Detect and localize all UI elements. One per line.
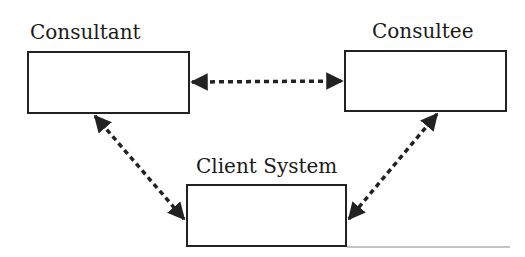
consultee-client-arrow (349, 114, 437, 219)
consultant-consultee-arrow (192, 81, 342, 82)
connector-arrows (0, 0, 525, 257)
consultation-triad-diagram: Consultant Consultee Client System (0, 0, 525, 257)
consultant-client-arrow (95, 116, 184, 219)
